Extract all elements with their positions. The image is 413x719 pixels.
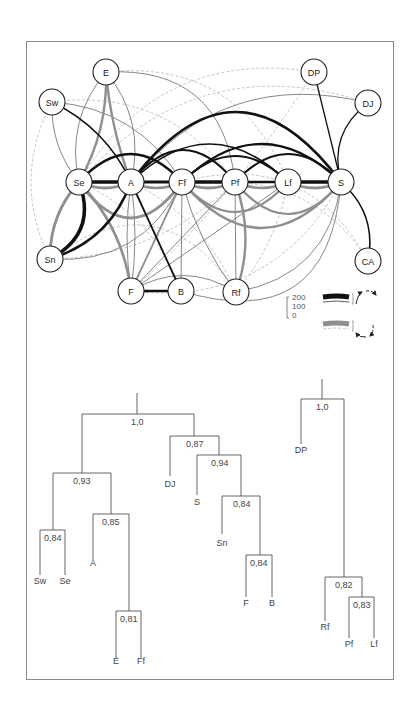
node-value-0-84-sn: 0,84 — [233, 499, 251, 509]
legend-tick-200: 200 — [292, 293, 306, 302]
node-sn: Sn — [37, 246, 63, 272]
legend-thin-edge-sample — [323, 301, 349, 302]
edge-e-se — [79, 72, 106, 182]
leaf-b: B — [269, 598, 275, 608]
leaf-rf: Rf — [321, 622, 330, 632]
node-value-1-0: 1,0 — [131, 417, 144, 427]
node-sw: Sw — [39, 89, 65, 115]
node-value-0-84-fb: 0,84 — [250, 558, 268, 568]
node-label: DJ — [363, 99, 374, 109]
node-f: F — [118, 278, 144, 304]
node-dp: DP — [301, 59, 327, 85]
node-label: S — [338, 178, 344, 188]
leaf-ff: Ff — [137, 656, 145, 666]
node-value-0-94: 0,94 — [211, 458, 229, 468]
legend-bidirectional-arrow-icon — [356, 333, 366, 337]
node-label: CA — [362, 257, 375, 267]
edge-pf-ca — [235, 182, 368, 261]
legend-dashed-edge-sample — [323, 328, 349, 329]
legend-directional-arrow-icon — [366, 291, 376, 295]
node-value-0-83: 0,83 — [353, 600, 371, 610]
edge-pf-rf — [235, 182, 246, 292]
node-label: Sn — [44, 255, 55, 265]
legend: 200 100 0 — [287, 291, 376, 337]
node-label: Pf — [231, 178, 240, 188]
leaf-lf: Lf — [370, 639, 378, 649]
node-ca: CA — [355, 248, 381, 274]
leaf-se: Se — [59, 576, 70, 586]
network-diagram: ESwDPDJSeAFfPfLfSSnCAFBRf 200 100 0 1,0 … — [0, 0, 413, 719]
leaf-f: F — [243, 598, 249, 608]
legend-tick-100: 100 — [292, 302, 306, 311]
node-label: Lf — [284, 178, 292, 188]
node-value-0-81: 0,81 — [120, 614, 138, 624]
node-label: Ff — [178, 178, 186, 188]
leaf-e: E — [113, 656, 119, 666]
legend-bidirectional-arrow-icon — [370, 325, 373, 336]
node-label: A — [128, 178, 134, 188]
node-a: A — [118, 169, 144, 195]
edge-f-lf — [131, 182, 288, 291]
edge-pf-rf — [235, 182, 236, 292]
leaf-pf: Pf — [345, 639, 354, 649]
legend-strong-edge-sample — [323, 296, 349, 297]
node-value-1-0-right: 1,0 — [316, 402, 329, 412]
edge-a-f — [131, 182, 135, 291]
node-label: Rf — [232, 288, 241, 298]
leaf-dj: DJ — [165, 479, 176, 489]
node-value-0-82: 0,82 — [335, 580, 353, 590]
node-pf: Pf — [222, 169, 248, 195]
node-ff: Ff — [169, 169, 195, 195]
node-value-0-84: 0,84 — [44, 533, 62, 543]
legend-gray-edge-sample — [323, 323, 349, 324]
leaf-s: S — [194, 497, 200, 507]
node-se: Se — [66, 169, 92, 195]
dendrogram-left: 1,0 0,93 0,84 Sw Se 0,85 A 0,81 E Ff 0,8… — [34, 393, 275, 666]
node-rf: Rf — [223, 279, 249, 305]
node-label: Se — [73, 178, 84, 188]
node-b: B — [168, 278, 194, 304]
node-label: E — [103, 68, 109, 78]
node-dj: DJ — [355, 90, 381, 116]
leaf-a: A — [90, 558, 96, 568]
node-s: S — [328, 169, 354, 195]
node-lf: Lf — [275, 169, 301, 195]
legend-tick-0: 0 — [292, 311, 297, 320]
edge-e-lf — [106, 71, 288, 182]
edge-e-a — [106, 72, 131, 182]
node-label: B — [178, 287, 184, 297]
dendrogram-right: 1,0 DP 0,82 Rf 0,83 Pf Lf — [295, 379, 379, 649]
leaf-dp: DP — [295, 445, 308, 455]
node-label: F — [128, 287, 134, 297]
node-value-0-87: 0,87 — [186, 439, 204, 449]
leaf-sw: Sw — [34, 576, 47, 586]
edge-sw-sn — [31, 102, 52, 259]
node-value-0-85: 0,85 — [102, 517, 120, 527]
legend-directional-arrow-icon — [356, 292, 362, 304]
edge-f-pf — [131, 182, 235, 291]
leaf-sn: Sn — [216, 538, 227, 548]
edge-lf-rf — [236, 182, 288, 292]
node-label: Sw — [46, 98, 59, 108]
node-label: DP — [308, 68, 321, 78]
node-value-0-93: 0,93 — [73, 476, 91, 486]
node-e: E — [93, 59, 119, 85]
legend-scale-bracket — [287, 297, 289, 318]
edge-ff-b — [181, 182, 182, 291]
